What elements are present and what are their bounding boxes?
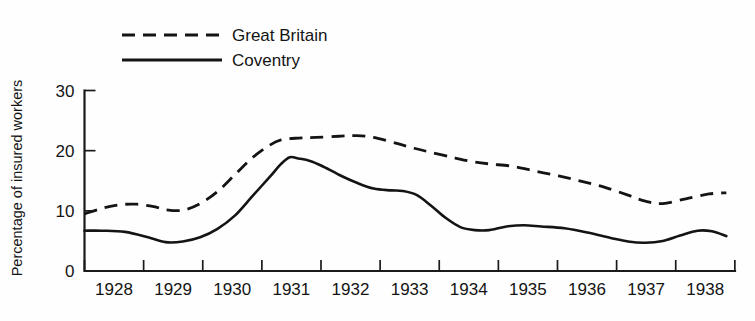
x-tick-label-1931: 1931	[272, 280, 310, 299]
series-line-coventry	[85, 157, 727, 243]
y-tick-label-30: 30	[56, 82, 75, 101]
x-tick-label-1936: 1936	[568, 280, 606, 299]
y-axis-tick-labels: 0102030	[56, 82, 75, 282]
series-line-great-britain	[85, 136, 727, 214]
y-axis-title: Percentage of insured workers	[9, 80, 25, 277]
x-tick-label-1934: 1934	[450, 280, 488, 299]
y-tick-label-20: 20	[56, 142, 75, 161]
legend-label-coventry: Coventry	[232, 51, 301, 70]
x-tick-label-1932: 1932	[332, 280, 370, 299]
y-axis-title-text: Percentage of insured workers	[9, 80, 25, 277]
x-tick-label-1930: 1930	[213, 280, 251, 299]
x-tick-label-1938: 1938	[686, 280, 724, 299]
x-axis-tick-labels: 1928192919301931193219331934193519361937…	[95, 280, 724, 299]
x-tick-label-1937: 1937	[627, 280, 665, 299]
x-tick-label-1929: 1929	[154, 280, 192, 299]
unemployment-line-chart: 1928192919301931193219331934193519361937…	[0, 0, 755, 321]
data-series-group	[85, 136, 727, 243]
legend-label-great-britain: Great Britain	[232, 26, 327, 45]
axis-ticks	[85, 91, 735, 272]
x-tick-label-1935: 1935	[509, 280, 547, 299]
y-tick-label-10: 10	[56, 202, 75, 221]
chart-legend: Great BritainCoventry	[122, 26, 327, 70]
x-tick-label-1928: 1928	[95, 280, 133, 299]
chart-axes	[85, 91, 736, 272]
y-tick-label-0: 0	[65, 262, 74, 281]
chart-canvas: 1928192919301931193219331934193519361937…	[0, 0, 755, 321]
axis-spines	[85, 91, 736, 272]
x-tick-label-1933: 1933	[391, 280, 429, 299]
